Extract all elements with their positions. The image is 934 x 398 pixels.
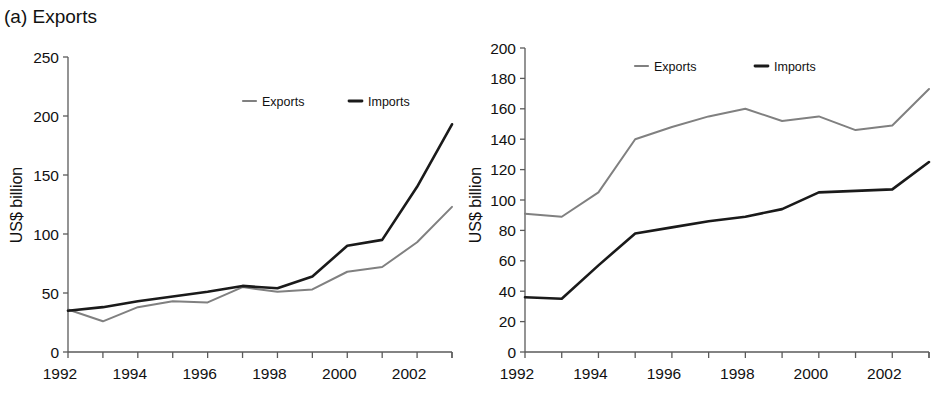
y-tick-label: 40: [499, 283, 517, 300]
chart-panel-a: (a) Exports 050100150200250US$ billion19…: [0, 0, 467, 398]
y-tick-label: 200: [490, 40, 516, 57]
y-axis-title: US$ billion: [8, 167, 25, 243]
y-tick-label: 150: [33, 167, 59, 184]
x-tick-label: 1996: [647, 365, 681, 382]
y-axis-title: US$ billion: [467, 167, 484, 243]
y-tick-label: 80: [499, 222, 517, 239]
y-tick-label: 0: [507, 344, 516, 361]
figure-two-panel-line-charts: (a) Exports 050100150200250US$ billion19…: [0, 0, 934, 398]
y-tick-label: 160: [490, 100, 516, 117]
y-tick-label: 120: [490, 161, 516, 178]
y-tick-label: 140: [490, 131, 516, 148]
y-tick-label: 180: [490, 70, 516, 87]
series-line-imports: [525, 162, 929, 299]
x-tick-label: 1992: [43, 365, 77, 382]
legend-label-exports: Exports: [262, 95, 304, 109]
x-tick-label: 1992: [500, 365, 534, 382]
legend-label-imports: Imports: [368, 95, 410, 109]
x-tick-label: 1994: [113, 365, 148, 382]
y-tick-label: 200: [33, 108, 59, 125]
panel-b-plot: 020406080100120140160180200US$ billion19…: [467, 0, 934, 398]
y-tick-label: 0: [50, 344, 59, 361]
series-line-imports: [68, 124, 452, 310]
x-tick-label: 1998: [720, 365, 754, 382]
y-tick-label: 100: [33, 226, 59, 243]
x-tick-label: 1996: [182, 365, 216, 382]
y-tick-label: 60: [499, 252, 517, 269]
x-tick-label: 2002: [867, 365, 901, 382]
y-tick-label: 250: [33, 49, 59, 66]
legend-label-imports: Imports: [774, 60, 816, 74]
panel-a-plot: 050100150200250US$ billion19921994199619…: [0, 0, 467, 398]
y-tick-label: 50: [42, 285, 60, 302]
y-tick-label: 100: [490, 192, 516, 209]
chart-panel-b: (b) Japan 020406080100120140160180200US$…: [467, 0, 934, 398]
legend-label-exports: Exports: [654, 60, 696, 74]
x-tick-label: 2002: [392, 365, 426, 382]
y-tick-label: 20: [499, 313, 517, 330]
x-tick-label: 2000: [322, 365, 357, 382]
x-tick-label: 1998: [252, 365, 286, 382]
x-tick-label: 1994: [573, 365, 608, 382]
series-line-exports: [525, 89, 929, 217]
x-tick-label: 2000: [794, 365, 829, 382]
